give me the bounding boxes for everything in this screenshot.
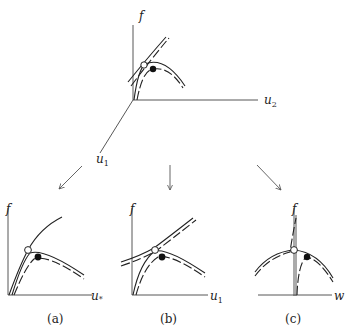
u1-label: u1 [210,289,223,305]
f-label: f [129,202,137,216]
panel-a: f u* (a) [5,202,103,326]
open-circle-marker [141,62,147,68]
arrow-to-panel-c [257,165,281,190]
filled-circle-marker [150,66,156,72]
f-label: f [5,202,13,216]
panel-b: f u1 (b) [121,202,223,326]
open-circle-marker [25,247,32,254]
w-label: w [334,289,345,303]
rising-curve [128,37,166,82]
u1-axis [100,100,133,153]
peak-curve [12,252,84,295]
diagram-canvas: f u2 u1 f u* (a) f u1 (b) [0,0,350,327]
filled-circle-marker [304,254,310,260]
right-curve-dashed [297,257,333,295]
caption-a: (a) [47,312,64,326]
u-star-label: u* [91,289,103,304]
open-circle-marker [152,247,159,254]
f-label: f [291,202,299,216]
caption-b: (b) [160,312,177,326]
peak-curve-dashed [137,69,183,100]
caption-c: (c) [285,312,301,326]
rising-curve-dashed [131,38,169,86]
u1-label: u1 [96,152,109,168]
filled-circle-marker [159,254,166,261]
panel-c: f w (c) [255,202,345,326]
u2-label: u2 [264,93,277,109]
open-circle-marker [291,247,298,254]
top-panel: f u2 u1 [96,9,277,168]
peak-curve-dashed [14,258,84,295]
arrow-to-panel-a [59,166,82,189]
peak-curve-dashed [136,257,205,295]
filled-circle-marker [35,254,42,261]
left-curve-dashed [255,218,296,276]
f-label: f [138,9,146,23]
